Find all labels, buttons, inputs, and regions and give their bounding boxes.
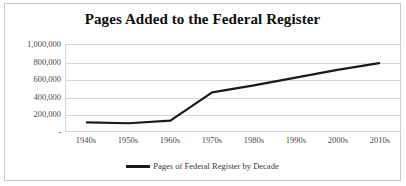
chart-title: Pages Added to the Federal Register bbox=[5, 11, 400, 28]
y-axis-tick-label: 400,000 bbox=[5, 92, 61, 102]
legend-line-swatch-icon bbox=[126, 165, 150, 168]
series-polyline bbox=[87, 63, 379, 123]
plot-area bbox=[65, 44, 401, 132]
x-axis: 1940s1950s1960s1970s1980s1990s2000s2010s bbox=[65, 135, 401, 149]
x-axis-tick-label: 1960s bbox=[160, 135, 180, 145]
data-series-line bbox=[66, 45, 400, 131]
x-axis-tick-label: 1990s bbox=[286, 135, 306, 145]
x-axis-tick-label: 1970s bbox=[202, 135, 222, 145]
y-axis: 1,000,000800,000600,000400,000200,000- bbox=[5, 44, 61, 132]
x-axis-tick-label: 1940s bbox=[76, 135, 96, 145]
x-axis-tick-label: 1980s bbox=[244, 135, 264, 145]
x-axis-tick-label: 2010s bbox=[370, 135, 390, 145]
y-axis-tick-label: 1,000,000 bbox=[5, 39, 61, 49]
x-axis-tick-label: 2000s bbox=[328, 135, 348, 145]
x-axis-tick-label: 1950s bbox=[118, 135, 138, 145]
y-axis-tick-label: - bbox=[5, 127, 61, 137]
legend-item: Pages of Federal Register by Decade bbox=[126, 161, 278, 171]
y-axis-tick-label: 800,000 bbox=[5, 57, 61, 67]
chart-container: Pages Added to the Federal Register 1,00… bbox=[4, 3, 401, 181]
legend-label: Pages of Federal Register by Decade bbox=[153, 161, 278, 171]
legend: Pages of Federal Register by Decade bbox=[5, 161, 400, 171]
y-axis-tick-label: 600,000 bbox=[5, 74, 61, 84]
y-axis-tick-label: 200,000 bbox=[5, 109, 61, 119]
